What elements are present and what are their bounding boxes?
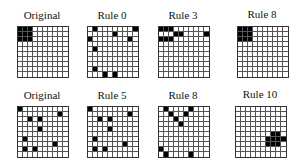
empty-cell [281, 152, 286, 157]
empty-cell [63, 72, 68, 77]
cell-grid [17, 26, 69, 78]
empty-cell [63, 152, 68, 157]
panel-label: Rule 8 [148, 89, 218, 101]
empty-cell [204, 152, 209, 157]
cell-grid [17, 106, 69, 158]
cell-grid [235, 106, 287, 158]
panel-label: Rule 5 [77, 89, 147, 101]
panel-label: Original [7, 9, 77, 21]
cell-grid [158, 26, 210, 78]
panel-label: Rule 0 [77, 9, 147, 21]
empty-cell [204, 72, 209, 77]
empty-cell [133, 152, 138, 157]
panel-label: Rule 3 [148, 9, 218, 21]
cell-grid [158, 106, 210, 158]
cell-grid [87, 106, 139, 158]
panel-label: Original [7, 89, 77, 101]
cell-grid [237, 26, 289, 78]
panel-label: Rule 10 [225, 88, 295, 100]
panel-label: Rule 8 [227, 8, 297, 20]
empty-cell [133, 72, 138, 77]
cell-grid [87, 26, 139, 78]
empty-cell [283, 72, 288, 77]
